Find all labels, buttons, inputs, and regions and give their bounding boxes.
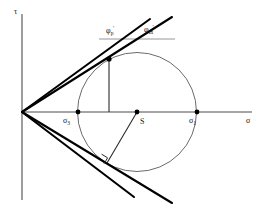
circle-center-label: S bbox=[140, 118, 144, 126]
peak-envelope-lower-line bbox=[22, 112, 134, 197]
peak-friction-angle-label: φp′ bbox=[106, 27, 115, 35]
sigma-3-label: σ3 bbox=[63, 117, 70, 125]
mohr-diagram-canvas bbox=[0, 0, 266, 211]
construction-group bbox=[102, 59, 137, 164]
failure-envelope-group bbox=[22, 17, 172, 203]
peak-envelope-upper-line bbox=[22, 19, 150, 112]
sigma-axis-label: σ bbox=[246, 117, 250, 125]
tau-axis-label: τ bbox=[14, 8, 17, 16]
sigma-3-subscript: 3 bbox=[67, 120, 70, 126]
circle-center-point-dot bbox=[135, 110, 140, 115]
mobilized-angle-prime: ′ bbox=[153, 24, 154, 30]
mobilized-envelope-lower-line bbox=[22, 112, 172, 203]
mobilized-friction-angle-label: φm′ bbox=[144, 26, 154, 34]
sigma-3-point-dot bbox=[76, 110, 81, 115]
sigma-1-label: σ1 bbox=[189, 117, 196, 125]
radius-to-lower-tangent-point bbox=[107, 112, 137, 163]
sigma-1-point-dot bbox=[195, 110, 200, 115]
axes-group bbox=[22, 14, 252, 200]
sigma-1-subscript: 1 bbox=[193, 120, 196, 126]
upper-tangent-point-dot bbox=[106, 56, 111, 61]
mohr-circle-figure: τ σ σ3 σ1 S φp′ φm′ bbox=[0, 0, 266, 211]
